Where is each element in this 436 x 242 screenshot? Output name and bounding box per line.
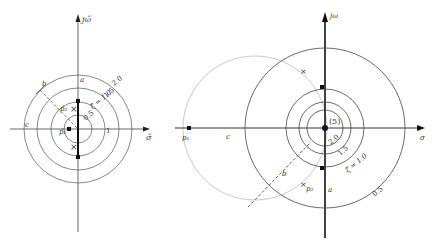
- right-jw-label: jω: [328, 12, 338, 20]
- right-sigma-arrow-icon: [417, 125, 425, 131]
- right-label-0.5: 0.5: [371, 185, 385, 198]
- left-diagram: × × jω̂ σ̂ a b c p̂₁ p̂₂ 0.5 1 1.5 2.0 ζ…: [10, 14, 152, 232]
- left-sigma-label: σ̂: [146, 133, 152, 142]
- right-sigma-label: σ: [420, 134, 425, 142]
- root-locus-figure: × × jω̂ σ̂ a b c p̂₁ p̂₂ 0.5 1 1.5 2.0 ζ…: [0, 0, 436, 242]
- right-locus-point-top: [320, 85, 324, 89]
- right-origin-label: (5): [329, 117, 340, 126]
- right-label-1.5: 1.5: [336, 144, 350, 157]
- left-label-c: c: [25, 121, 29, 129]
- left-pole-p2conj-mark: ×: [70, 142, 78, 152]
- left-pole-p2-mark: ×: [70, 104, 78, 114]
- right-diagram: × × jω σ p₁ p₂ c b a (5) 2.0 1.5 ζ = 1.0…: [175, 12, 425, 238]
- right-label-zeta: ζ = 1.0: [344, 152, 369, 175]
- left-label-zeta: ζ̂ = 1.0: [89, 88, 114, 111]
- left-label-1: 1: [106, 127, 110, 135]
- left-locus-end-bottom: [76, 155, 80, 159]
- left-jw-arrow-icon: [76, 14, 81, 22]
- right-locus-point-bottom: [320, 166, 324, 170]
- right-label-p2: p₂: [306, 185, 313, 193]
- right-label-p1: p₁: [182, 134, 189, 142]
- left-sigma-arrow-icon: [143, 127, 150, 132]
- left-pole-p1: [67, 127, 71, 131]
- right-label-2.0: 2.0: [327, 133, 341, 146]
- right-label-c: c: [226, 133, 230, 141]
- left-label-p2: p̂₂: [60, 105, 67, 113]
- right-pole-upper-mark: ×: [300, 67, 307, 76]
- left-label-p1: p̂₁: [59, 128, 66, 136]
- right-jw-arrow-icon: [322, 12, 328, 22]
- right-pole-p1: [187, 126, 191, 130]
- right-label-b: b: [282, 170, 287, 178]
- left-locus-end-top: [76, 99, 80, 103]
- left-jw-label: jω̂: [80, 15, 91, 24]
- left-label-a: a: [80, 76, 84, 84]
- right-origin-zero: [322, 125, 328, 131]
- right-label-a: a: [328, 186, 332, 194]
- right-dashed-b: [248, 142, 311, 207]
- left-label-b: b: [42, 80, 47, 88]
- left-label-2.0: 2.0: [110, 74, 124, 87]
